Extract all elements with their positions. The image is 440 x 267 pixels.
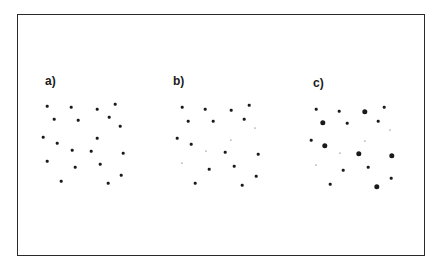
dot xyxy=(255,175,258,178)
dot xyxy=(194,182,197,185)
dot xyxy=(233,165,236,168)
dot xyxy=(190,143,193,146)
dot xyxy=(230,109,233,112)
panel-label-a: a) xyxy=(45,74,56,88)
dot xyxy=(108,116,111,119)
dot xyxy=(119,125,122,128)
dot xyxy=(208,168,211,171)
dot xyxy=(114,103,117,106)
dot xyxy=(342,169,345,172)
dot xyxy=(310,139,313,142)
dot xyxy=(56,142,59,145)
dot xyxy=(243,118,246,121)
panel-label-c: c) xyxy=(313,76,324,90)
dot xyxy=(176,137,179,140)
dot xyxy=(96,108,99,111)
dot xyxy=(204,108,207,111)
dot xyxy=(70,106,73,109)
dot xyxy=(390,177,393,180)
dot xyxy=(122,152,125,155)
dot xyxy=(329,183,332,186)
dot xyxy=(338,110,341,113)
dot xyxy=(383,106,386,109)
dot xyxy=(90,150,93,153)
dot xyxy=(377,120,380,123)
dot xyxy=(315,108,318,111)
dot xyxy=(46,160,49,163)
dot xyxy=(42,136,45,139)
dot xyxy=(96,137,99,140)
dot xyxy=(74,166,77,169)
dot xyxy=(71,149,74,152)
dot xyxy=(99,163,102,166)
figure-frame xyxy=(17,14,425,256)
dot xyxy=(77,119,80,122)
dot xyxy=(241,184,244,187)
dot xyxy=(46,105,49,108)
dot xyxy=(224,151,227,154)
dot xyxy=(346,122,349,125)
dot xyxy=(60,180,63,183)
dot xyxy=(257,153,260,156)
dot xyxy=(120,174,123,177)
dot xyxy=(107,182,110,185)
dot xyxy=(248,104,251,107)
dot xyxy=(187,120,190,123)
dot xyxy=(181,106,184,109)
panel-label-b: b) xyxy=(173,74,184,88)
dot xyxy=(212,120,215,123)
dot xyxy=(53,118,56,121)
dot xyxy=(367,166,370,169)
